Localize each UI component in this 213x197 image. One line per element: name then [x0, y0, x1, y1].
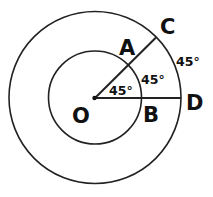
- angle-label-outer: 45°: [176, 54, 200, 69]
- label-a: A: [119, 36, 136, 60]
- angle-label-middle: 45°: [141, 72, 165, 87]
- angle-label-inner: 45°: [109, 83, 133, 98]
- label-o: O: [72, 104, 90, 128]
- label-d: D: [186, 91, 203, 115]
- concentric-circles-diagram: C A O B D 45° 45° 45°: [0, 0, 213, 197]
- center-point-o: [92, 96, 96, 100]
- label-b: B: [143, 103, 159, 127]
- label-c: C: [160, 15, 175, 39]
